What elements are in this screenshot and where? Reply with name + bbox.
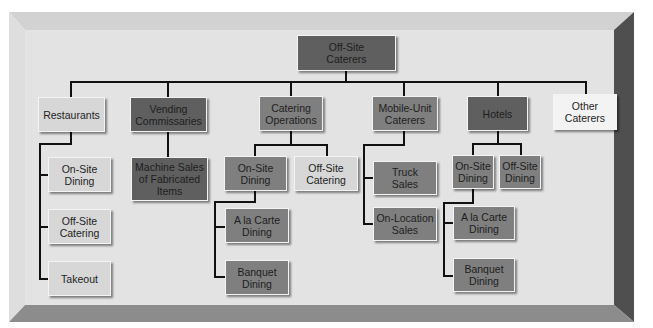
connector xyxy=(497,81,499,96)
node-label: Off-Site Caterers xyxy=(326,41,366,65)
connector xyxy=(39,143,72,145)
node-label: Off-Site Catering xyxy=(60,215,100,239)
connector xyxy=(290,131,292,145)
node-label: Banquet Dining xyxy=(464,263,503,287)
connector xyxy=(214,201,216,278)
connector xyxy=(363,144,365,225)
node-label: Catering Operations xyxy=(265,102,316,126)
connector xyxy=(363,223,373,225)
node-hotels-a-la-carte-dining: A la Carte Dining xyxy=(453,206,515,240)
connector xyxy=(214,276,225,278)
connector xyxy=(254,144,328,146)
connector xyxy=(214,226,225,228)
node-label: Mobile-Unit Caterers xyxy=(378,102,431,126)
frame-right-bevel xyxy=(614,12,634,322)
connector xyxy=(39,174,48,176)
node-restaurants-takeout: Takeout xyxy=(48,261,111,296)
node-catering-off-site-catering: Off-Site Catering xyxy=(294,156,358,191)
node-hotels-off-site-dining: Off-Site Dining xyxy=(499,155,541,189)
connector xyxy=(363,144,405,146)
node-label: Banquet Dining xyxy=(237,266,276,290)
node-label: Hotels xyxy=(483,108,513,120)
connector xyxy=(39,226,48,228)
node-label: A la Carte Dining xyxy=(461,211,507,235)
node-label: Truck Sales xyxy=(392,166,418,190)
connector xyxy=(443,222,453,224)
node-label: Machine Sales of Fabricated Items xyxy=(135,161,204,197)
connector xyxy=(39,278,48,280)
frame-left-bevel xyxy=(9,12,25,322)
connector xyxy=(39,143,41,279)
connector xyxy=(167,132,169,157)
node-hotels-banquet-dining: Banquet Dining xyxy=(453,258,515,292)
connector xyxy=(403,131,405,145)
frame-top-bevel xyxy=(9,12,634,30)
node-label: Other Caterers xyxy=(565,100,605,124)
node-mobile-unit-caterers: Mobile-Unit Caterers xyxy=(372,96,438,131)
connector xyxy=(167,81,169,97)
node-off-site-caterers: Off-Site Caterers xyxy=(297,35,396,71)
connector xyxy=(254,144,256,156)
node-on-location-sales: On-Location Sales xyxy=(373,207,437,241)
node-hotels-on-site-dining: On-Site Dining xyxy=(452,155,494,189)
connector xyxy=(472,188,474,203)
connector xyxy=(363,177,373,179)
connector xyxy=(70,81,587,83)
node-restaurants-on-site-dining: On-Site Dining xyxy=(48,157,111,192)
node-label: A la Carte Dining xyxy=(234,214,280,238)
connector xyxy=(443,202,474,204)
node-label: On-Location Sales xyxy=(376,212,433,236)
connector xyxy=(290,81,292,96)
node-label: On-Site Dining xyxy=(455,160,491,184)
node-catering-on-site-dining: On-Site Dining xyxy=(224,156,287,191)
node-truck-sales: Truck Sales xyxy=(373,161,437,195)
node-label: Takeout xyxy=(61,273,98,285)
node-label: On-Site Dining xyxy=(62,163,98,187)
connector xyxy=(443,202,445,277)
node-label: Off-Site Dining xyxy=(502,160,537,184)
connector xyxy=(443,275,453,277)
node-catering-a-la-carte-dining: A la Carte Dining xyxy=(225,208,289,243)
node-machine-sales: Machine Sales of Fabricated Items xyxy=(131,157,208,201)
connector xyxy=(403,81,405,96)
node-restaurants-off-site-catering: Off-Site Catering xyxy=(48,209,111,244)
connector xyxy=(214,201,256,203)
connector xyxy=(472,143,522,145)
node-hotels: Hotels xyxy=(467,96,528,131)
node-restaurants: Restaurants xyxy=(38,97,105,132)
node-label: Off-Site Catering xyxy=(306,162,346,186)
node-label: On-Site Dining xyxy=(238,162,274,186)
node-other-caterers: Other Caterers xyxy=(553,94,617,130)
connector xyxy=(326,144,328,156)
frame-bottom-bevel xyxy=(9,305,634,322)
node-label: Vending Commissaries xyxy=(135,103,202,127)
node-catering-banquet-dining: Banquet Dining xyxy=(225,260,289,295)
node-catering-operations: Catering Operations xyxy=(259,96,323,131)
connector xyxy=(70,81,72,97)
node-label: Restaurants xyxy=(43,109,100,121)
node-vending-commissaries: Vending Commissaries xyxy=(130,97,207,132)
